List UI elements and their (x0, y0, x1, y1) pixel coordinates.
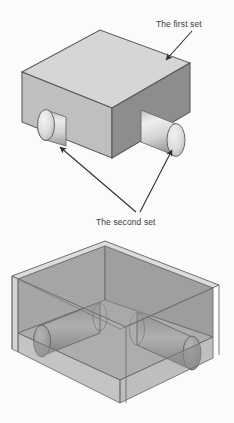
figure-illustration (0, 0, 234, 423)
solid-block-view (22, 30, 192, 212)
label-second-set: The second set (96, 217, 156, 227)
ghost-outer-left-wall (12, 276, 18, 352)
figure-page: The first set The second set (0, 0, 234, 423)
arrow-second-set-left (60, 147, 136, 212)
arrow-second-set-right (140, 150, 172, 212)
label-first-set: The first set (156, 19, 202, 29)
arrow-first-set (166, 31, 192, 60)
transparent-block-view (12, 241, 219, 403)
